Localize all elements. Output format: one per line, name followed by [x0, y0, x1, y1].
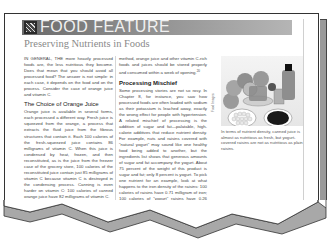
- intro-paragraph: IN GENERAL, THE more heavily processed f…: [24, 56, 113, 98]
- food-feature-logo-icon: [24, 21, 37, 34]
- processing-paragraph: Some processing stories are not so rosy.…: [119, 88, 207, 209]
- photo-credit: Food Images: [211, 93, 215, 112]
- reference-number: 20: [197, 69, 200, 73]
- feature-subtitle: Preserving Nutrients in Foods: [24, 38, 150, 49]
- column-divider: [115, 56, 116, 216]
- page-edge-shadow: [320, 19, 327, 213]
- section-heading-orange-juice: The Choice of Orange Juice: [24, 101, 113, 108]
- storage-text: method, orange juice and other vitamin C…: [119, 56, 207, 76]
- feature-banner-title: FOOD FEATURE: [40, 18, 170, 36]
- orange-juice-paragraph: Orange juice is available in several for…: [24, 109, 113, 200]
- section-heading-processing-mischief: Processing Mischief: [119, 80, 207, 87]
- middle-text-column: method, orange juice and other vitamin C…: [119, 56, 207, 209]
- torn-page-edge: [0, 200, 336, 241]
- food-photo: [221, 56, 303, 126]
- photo-caption: In terms of nutrient density, canned jui…: [221, 129, 303, 151]
- logo-graphic: [26, 23, 35, 32]
- food-photo-illustration: [221, 56, 303, 126]
- intro-text: more heavily processed foods are, the le…: [24, 56, 113, 97]
- storage-paragraph: method, orange juice and other vitamin C…: [119, 56, 207, 77]
- intro-lead: IN GENERAL, THE: [24, 56, 63, 61]
- left-text-column: IN GENERAL, THE more heavily processed f…: [24, 56, 113, 206]
